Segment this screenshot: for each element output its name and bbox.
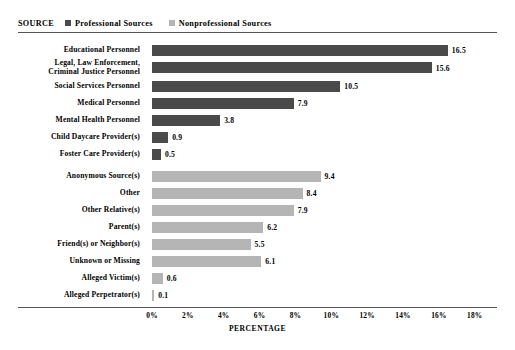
bar	[152, 81, 340, 92]
chart-row: Alleged Perpetrator(s)0.1	[0, 284, 515, 306]
bar-value-label: 0.5	[165, 150, 175, 159]
bar	[152, 115, 220, 126]
legend-title: SOURCE	[18, 19, 54, 28]
x-tick-label: 8%	[290, 311, 302, 320]
bar-value-label: 0.9	[172, 133, 182, 142]
bar-value-label: 7.9	[298, 99, 308, 108]
legend-entry-nonprofessional: Nonprofessional Sources	[169, 19, 272, 28]
category-label-line: Anonymous Source(s)	[66, 172, 140, 181]
category-label-line: Parent(s)	[109, 223, 140, 232]
x-tick-label: 2%	[182, 311, 194, 320]
bar-value-label: 7.9	[298, 206, 308, 215]
bar	[152, 132, 168, 143]
chart-container: SOURCE Professional Sources Nonprofessio…	[0, 0, 515, 350]
chart-row: Foster Care Provider(s)0.5	[0, 143, 515, 165]
bar	[152, 149, 161, 160]
bar-value-label: 6.1	[265, 257, 275, 266]
bar	[152, 273, 163, 284]
category-label: Alleged Perpetrator(s)	[0, 284, 146, 306]
bar	[152, 256, 261, 267]
bar	[152, 98, 294, 109]
x-axis-line	[18, 307, 497, 308]
category-label-line: Child Daycare Provider(s)	[51, 133, 140, 142]
category-label-line: Medical Personnel	[77, 99, 140, 108]
legend-label-professional: Professional Sources	[75, 19, 153, 28]
bar-value-label: 15.6	[436, 64, 450, 73]
bar-value-label: 6.2	[267, 223, 277, 232]
bar	[152, 290, 154, 301]
x-tick-label: 12%	[359, 311, 374, 320]
bar	[152, 62, 432, 73]
x-tick-label: 16%	[431, 311, 446, 320]
x-tick-label: 4%	[218, 311, 230, 320]
category-label-line: Friend(s) or Neighbor(s)	[57, 240, 140, 249]
x-axis-title: PERCENTAGE	[0, 324, 515, 333]
category-label: Foster Care Provider(s)	[0, 143, 146, 165]
x-tick-label: 6%	[254, 311, 266, 320]
bar-value-label: 9.4	[325, 172, 335, 181]
x-tick-label: 10%	[324, 311, 339, 320]
bar	[152, 222, 263, 233]
category-label-line: Other	[120, 189, 140, 198]
plot-area: Educational Personnel16.5Legal, Law Enfo…	[0, 36, 515, 302]
category-label-line: Unknown or Missing	[69, 257, 140, 266]
category-label-line: Alleged Victim(s)	[82, 274, 140, 283]
bar	[152, 45, 448, 56]
bar-value-label: 3.8	[224, 116, 234, 125]
x-tick-label: 14%	[395, 311, 410, 320]
legend-swatch-nonprofessional	[169, 20, 175, 26]
bar-value-label: 0.1	[158, 291, 168, 300]
legend-label-nonprofessional: Nonprofessional Sources	[179, 19, 272, 28]
bar	[152, 205, 294, 216]
bar-value-label: 0.6	[167, 274, 177, 283]
chart-legend: SOURCE Professional Sources Nonprofessio…	[18, 17, 288, 29]
bar	[152, 171, 321, 182]
category-label-line: Educational Personnel	[64, 46, 140, 55]
category-label-line: Mental Health Personnel	[56, 116, 140, 125]
bar-value-label: 10.5	[344, 82, 358, 91]
bar	[152, 188, 303, 199]
bar-value-label: 16.5	[452, 46, 466, 55]
legend-swatch-professional	[65, 20, 71, 26]
bar	[152, 239, 251, 250]
category-label-line: Other Relative(s)	[82, 206, 140, 215]
legend-entry-professional: Professional Sources	[65, 19, 153, 28]
category-label-line: Social Services Personnel	[54, 82, 140, 91]
category-label-line: Foster Care Provider(s)	[60, 150, 140, 159]
legend-divider	[18, 32, 497, 33]
bar-value-label: 5.5	[255, 240, 265, 249]
bar-value-label: 8.4	[307, 189, 317, 198]
x-tick-label: 0%	[146, 311, 158, 320]
x-tick-label: 18%	[467, 311, 482, 320]
category-label-line: Alleged Perpetrator(s)	[64, 291, 140, 300]
